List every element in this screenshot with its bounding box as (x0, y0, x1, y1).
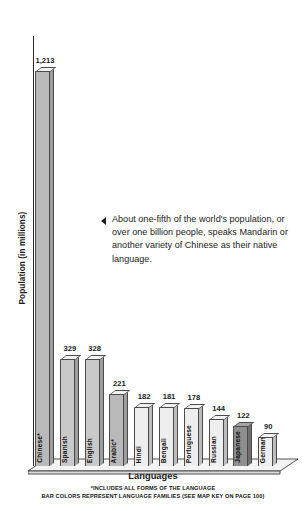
bar-russian: Russian144 (209, 419, 230, 466)
bar-value-label: 90 (252, 422, 284, 431)
bar-english: English328 (85, 359, 106, 466)
bar-chinese: Chinese*1,213 (35, 71, 56, 466)
bar-value-label: 178 (178, 393, 210, 402)
bar-side-3d (50, 68, 54, 466)
bar-face: German (258, 437, 273, 466)
footnote-includes-all-forms: *INCLUDES ALL FORMS OF THE LANGUAGE (0, 485, 306, 491)
footnote-bar-colors: BAR COLORS REPRESENT LANGUAGE FAMILIES (… (0, 493, 306, 499)
bar-category-label: Hindi (135, 446, 150, 463)
bar-face: Bengali (159, 407, 174, 466)
bar-value-label: 221 (103, 379, 135, 388)
bar-japanese: Japanese122 (233, 426, 254, 466)
bar-face: Arabic* (109, 394, 124, 466)
y-axis-label: Population (in millions) (18, 178, 27, 338)
bar-side-3d (124, 391, 128, 466)
chart-annotation: About one-fifth of the world's populatio… (112, 213, 297, 266)
bar-value-label: 122 (227, 411, 259, 420)
bar-face: Chinese* (35, 71, 50, 466)
bar-category-label: Portuguese (185, 425, 200, 463)
bar-side-3d (224, 416, 228, 466)
bar-value-label: 1,213 (29, 56, 61, 65)
bar-category-label: English (86, 438, 101, 463)
bar-spanish: Spanish329 (60, 359, 81, 466)
bar-category-label: Chinese* (36, 433, 51, 463)
bar-german: German90 (258, 437, 279, 466)
bar-bengali: Bengali181 (159, 407, 180, 466)
annotation-text: About one-fifth of the world's populatio… (112, 214, 288, 264)
bar-portuguese: Portuguese178 (184, 408, 205, 466)
bar-side-3d (199, 405, 203, 466)
bar-side-3d (174, 404, 178, 466)
bar-side-3d (149, 404, 153, 466)
bar-category-label: Spanish (61, 436, 76, 463)
bar-category-label: German (259, 437, 274, 463)
bar-chart: Population (in millions) Chinese*1,213Sp… (0, 0, 306, 511)
bar-face: Portuguese (184, 408, 199, 466)
x-axis-label: Languages (0, 470, 306, 481)
bar-side-3d (100, 356, 104, 466)
bar-category-label: Bengali (160, 438, 175, 463)
bar-face: Hindi (134, 407, 149, 466)
bar-value-label: 328 (79, 344, 111, 353)
bar-side-3d (273, 434, 277, 466)
bar-arabic: Arabic*221 (109, 394, 130, 466)
bar-face: English (85, 359, 100, 466)
bar-hindi: Hindi182 (134, 407, 155, 466)
bar-face: Spanish (60, 359, 75, 466)
bar-category-label: Russian (210, 436, 225, 463)
bar-face: Russian (209, 419, 224, 466)
bar-side-3d (75, 356, 79, 466)
bar-face: Japanese (233, 426, 248, 466)
triangle-bullet-icon (101, 217, 106, 225)
